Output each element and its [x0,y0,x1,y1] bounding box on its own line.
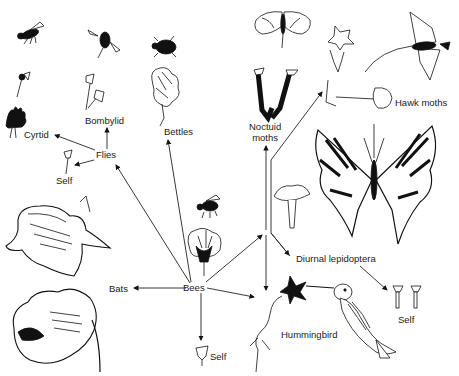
label-hawk-moths: Hawk moths [395,97,447,108]
bee-flower [188,228,221,276]
swallowtail-butterfly [316,124,436,244]
fly-insect [18,22,45,44]
hummingbird [306,284,396,358]
label-self-diurnal: Self [398,314,414,325]
label-self-bees: Self [210,351,226,362]
self-flowers-diurnal [393,286,421,308]
butterfly-flower [274,185,310,228]
label-bettles: Bettles [164,126,193,137]
noctuid-moth [255,12,310,48]
bee [197,195,220,218]
bombylid-fly [88,30,120,58]
label-noctuid-line2: moths [249,132,281,143]
cyrtid-flower [17,72,30,97]
label-bombylid: Bombylid [85,115,124,126]
cyrtid-flower-head [6,107,26,138]
self-flowers-flies [64,150,72,174]
label-bees: Bees [183,282,205,293]
bat-flower-lower [13,289,100,372]
beetle-flower [152,68,179,126]
label-diurnal-lepidoptera: Diurnal lepidoptera [296,253,376,264]
hawk-moth-flower [326,26,392,108]
pollination-diagram: Bees Flies Cyrtid Bombylid Self Bettles … [0,0,459,376]
label-flies: Flies [96,149,116,160]
hummingbird-flower [250,276,306,372]
hawk-moth [365,12,450,80]
noctuid-flowers [254,68,298,118]
illustrations-layer [0,0,459,376]
beetle [152,36,176,57]
label-cyrtid: Cyrtid [24,129,49,140]
label-noctuid-moths: Noctuid moths [249,121,281,143]
bombylid-flowers [86,74,104,110]
label-bats: Bats [109,283,128,294]
label-hummingbird: Hummingbird [281,329,338,340]
label-self-flies: Self [56,175,72,186]
label-noctuid-line1: Noctuid [249,121,281,132]
bat-flower-upper [6,196,110,276]
self-flower-bees [196,346,208,366]
